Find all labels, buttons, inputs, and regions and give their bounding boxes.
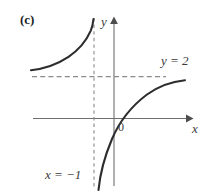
curve-right-branch [99, 80, 186, 190]
horizontal-asymptote-label: y = 2 [161, 54, 189, 67]
vertical-asymptote-label: x = −1 [45, 168, 81, 181]
x-axis [33, 115, 194, 123]
y-axis-label: y [101, 15, 107, 28]
y-axis [110, 17, 118, 187]
x-axis-label: x [192, 122, 198, 135]
y-axis-arrowhead [110, 17, 118, 25]
panel-label: (c) [20, 13, 34, 26]
origin-label: 0 [118, 121, 124, 133]
curve-left-branch [31, 19, 94, 70]
figure-panel-c: (c) y x 0 y = 2 x = −1 [0, 0, 204, 193]
